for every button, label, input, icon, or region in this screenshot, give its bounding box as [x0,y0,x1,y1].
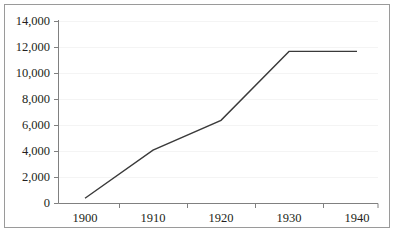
y-tick-label-0: 0 [2,197,50,210]
y-tick-label-10000: 10,000 [2,67,50,80]
y-tick-label-2000: 2,000 [2,171,50,184]
x-tick-label-1910: 1910 [123,212,183,225]
y-tick-label-12000: 12,000 [2,41,50,54]
horizontal-gridlines [59,22,379,178]
y-tick-label-8000: 8,000 [2,93,50,106]
x-tick-label-1930: 1930 [259,212,319,225]
x-tick-label-1920: 1920 [191,212,251,225]
y-axis-ticks [54,22,59,204]
x-tick-label-1900: 1900 [55,212,115,225]
y-tick-label-4000: 4,000 [2,145,50,158]
line-chart-figure: 14,000 12,000 10,000 8,000 6,000 4,000 2… [0,0,402,241]
y-tick-label-14000: 14,000 [2,15,50,28]
x-axis-ticks [120,204,379,209]
y-tick-label-6000: 6,000 [2,119,50,132]
plot-area-svg [0,0,402,241]
x-tick-label-1940: 1940 [327,212,387,225]
